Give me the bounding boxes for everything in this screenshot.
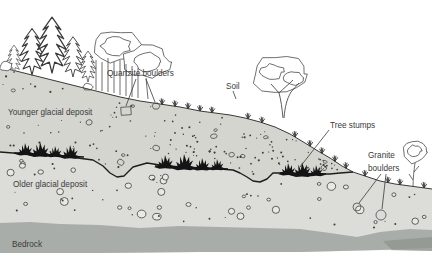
diagram-canvas: Quartzite boulders Soil Younger glacial … (0, 0, 432, 259)
glacial-deposit-diagram: Quartzite boulders Soil Younger glacial … (0, 0, 432, 259)
label-younger-glacial-deposit: Younger glacial deposit (8, 108, 93, 117)
label-quartzite-boulders: Quartzite boulders (107, 69, 174, 78)
label-granite-line2: boulders (368, 164, 399, 173)
label-granite-line1: Granite (368, 151, 395, 160)
label-soil: Soil (226, 82, 240, 91)
label-bedrock: Bedrock (12, 240, 43, 249)
label-older-glacial-deposit: Older glacial deposit (13, 180, 88, 189)
label-tree-stumps: Tree stumps (330, 121, 375, 130)
